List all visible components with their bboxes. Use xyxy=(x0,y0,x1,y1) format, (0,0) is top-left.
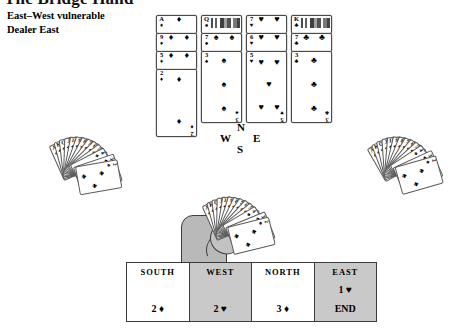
suit-pip: ♣ xyxy=(303,33,309,42)
suit-pip: ♠ xyxy=(229,33,234,42)
card-rank-corner: 5♥ xyxy=(249,52,255,64)
card-pips: ♣♣ xyxy=(300,34,328,51)
card-rank-corner-bottom: 5♥ xyxy=(279,110,285,123)
suit-pip: ♥ xyxy=(258,15,263,24)
card-rank-corner: 3♣ xyxy=(294,52,300,64)
played-card[interactable]: 6♥♥♥ xyxy=(246,33,287,52)
suit-pip: ♥ xyxy=(258,57,263,66)
compass-south: S xyxy=(237,143,243,155)
suit-pip: ♣ xyxy=(311,56,317,65)
west-hand-fan[interactable]: A♣K♣Q♣J♣10♣9♣8♣7♣6♣5♣4♣3♣♣♣♣2♣♣♣♣ xyxy=(75,178,76,179)
card-rank-corner-bottom: 3♠ xyxy=(234,110,240,123)
played-card[interactable]: A♦♦ xyxy=(156,15,197,34)
court-card-picture xyxy=(301,18,330,28)
suit-pip: ♥ xyxy=(258,33,263,42)
bidding-column-south[interactable]: SOUTH2 ♦ xyxy=(127,263,190,321)
suit-pip: ♠ xyxy=(214,33,219,42)
suit-pip: ♣ xyxy=(79,174,87,180)
bidding-column-east[interactable]: EAST1 ♥END xyxy=(315,263,377,321)
card-rank-corner-bottom: 2♦ xyxy=(189,124,195,137)
suit-pip: ♣ xyxy=(311,104,317,113)
card-rank-corner-bottom: 3♣ xyxy=(324,110,330,123)
bid-call[interactable]: 3 ♦ xyxy=(276,302,289,316)
suit-pip: ♥ xyxy=(274,15,279,24)
suit-pip: ♣ xyxy=(250,229,258,235)
fan-card-index: 2♣ xyxy=(425,157,436,165)
suit-pip: ♦ xyxy=(185,33,190,42)
suit-pip: ♣ xyxy=(311,80,317,89)
card-rank-corner: 2♦ xyxy=(159,70,165,82)
bid-call[interactable]: 2 ♦ xyxy=(151,302,164,316)
suit-pip: ♥ xyxy=(274,33,279,42)
suit-pip: ♦ xyxy=(177,75,182,84)
suit-pip: ♠ xyxy=(222,56,227,65)
played-card[interactable]: 9♦♦♦ xyxy=(156,33,197,52)
suit-pip: ♥ xyxy=(266,80,271,89)
suit-pip: ♦ xyxy=(177,117,182,126)
card-rank-corner: 3♠ xyxy=(204,52,210,64)
dealer-label: Dealer East xyxy=(7,24,59,35)
bid-call[interactable]: 1 ♥ xyxy=(339,283,352,297)
card-rank-corner: A♦ xyxy=(159,16,165,28)
card-rank-corner: K♣ xyxy=(294,16,300,28)
bidding-seat-header: WEST xyxy=(206,267,234,277)
card-rank-corner: 6♥ xyxy=(249,34,255,46)
played-card[interactable]: 2♦♦♦2♦ xyxy=(156,69,197,137)
suit-pip: ♦ xyxy=(169,33,174,42)
played-card[interactable]: Q♠ xyxy=(201,15,242,34)
bidding-calls: 1 ♥END xyxy=(315,277,377,321)
suit-pip: ♦ xyxy=(177,15,182,24)
page-title: The Bridge Hand xyxy=(4,0,134,9)
suit-pip: ♣ xyxy=(412,181,420,187)
suit-pip: ♣ xyxy=(97,171,105,177)
fan-card-index: 2♣ xyxy=(106,161,117,168)
east-hand-fan[interactable]: A♣K♣Q♣J♣10♣9♣8♣7♣6♣5♣4♣3♣♣♣♣2♣♣♣♣ xyxy=(396,178,397,179)
suit-pip: ♦ xyxy=(169,51,174,60)
vulnerability-label: East–West vulnerable xyxy=(7,10,105,21)
card-pips: ♦♦ xyxy=(165,52,193,69)
suit-pip: ♣ xyxy=(90,183,98,189)
suit-pip: ♣ xyxy=(243,242,251,248)
compass-west: W xyxy=(220,132,231,144)
card-pips: ♥♥ xyxy=(255,16,283,33)
bidding-column-north[interactable]: NORTH3 ♦ xyxy=(252,263,315,321)
card-pips: ♥♥ xyxy=(255,34,283,51)
suit-pip: ♣ xyxy=(232,233,240,239)
suit-pip: ♠ xyxy=(222,104,227,113)
bidding-calls: 3 ♦ xyxy=(252,277,314,321)
card-pips: ♠♠ xyxy=(210,34,238,51)
card-rank-corner: 5♦ xyxy=(159,52,165,64)
bridge-diagram: The Bridge Hand East–West vulnerable Dea… xyxy=(0,0,470,329)
compass-east: E xyxy=(253,132,260,144)
bid-call[interactable]: END xyxy=(335,302,356,316)
card-rank-corner: 7♥ xyxy=(249,16,255,28)
card-rank-corner: 7♠ xyxy=(204,34,210,46)
played-card[interactable]: 3♣♣♣♣3♣ xyxy=(291,51,332,123)
played-card[interactable]: 7♣♣♣ xyxy=(291,33,332,52)
card-pips: ♦ xyxy=(165,16,193,33)
bidding-calls: 2 ♥ xyxy=(190,277,252,321)
bidding-column-west[interactable]: WEST2 ♥ xyxy=(190,263,253,321)
played-card[interactable]: 7♠♠♠ xyxy=(201,33,242,52)
played-card[interactable]: 5♦♦♦ xyxy=(156,51,197,70)
suit-pip: ♣ xyxy=(417,168,425,174)
card-rank-corner: Q♠ xyxy=(204,16,210,28)
card-pips: ♦♦ xyxy=(165,34,193,51)
fan-card[interactable]: 2♣♣♣♣ xyxy=(75,159,122,195)
bid-call[interactable]: 2 ♥ xyxy=(214,302,227,316)
played-card[interactable]: 5♥♥♥♥♥♥5♥ xyxy=(246,51,287,123)
played-card[interactable]: K♣ xyxy=(291,15,332,34)
suit-pip: ♥ xyxy=(258,102,263,111)
bidding-table: SOUTH2 ♦WEST2 ♥NORTH3 ♦EAST1 ♥END xyxy=(126,262,377,322)
card-rank-corner: 9♦ xyxy=(159,34,165,46)
suit-pip: ♣ xyxy=(319,33,325,42)
fan-card-index: 2♣ xyxy=(258,219,269,226)
suit-pip: ♦ xyxy=(185,51,190,60)
bidding-seat-header: SOUTH xyxy=(141,267,175,277)
card-rank-corner: 7♣ xyxy=(294,34,300,46)
played-card[interactable]: 3♠♠♠♠3♠ xyxy=(201,51,242,123)
played-card[interactable]: 7♥♥♥ xyxy=(246,15,287,34)
bidding-seat-header: EAST xyxy=(332,267,358,277)
bidding-calls: 2 ♦ xyxy=(127,277,189,321)
court-card-picture xyxy=(211,18,240,28)
